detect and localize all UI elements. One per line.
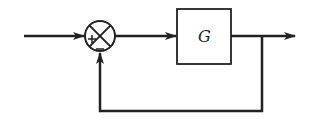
block-label: G — [198, 27, 211, 46]
summing-junction — [85, 21, 115, 51]
block-diagram — [0, 0, 313, 122]
